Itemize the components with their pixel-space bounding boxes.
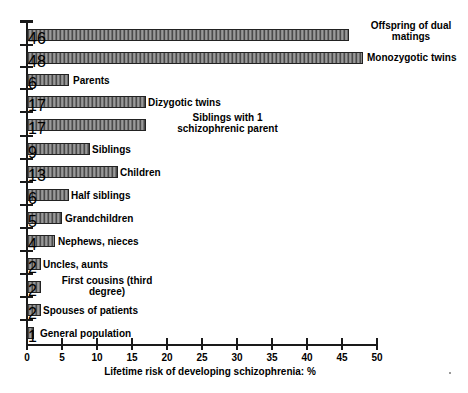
bar-label: Nephews, nieces — [58, 236, 188, 247]
bar: 6 — [27, 74, 69, 86]
x-axis-tick — [96, 338, 98, 350]
bar: 17 — [27, 119, 146, 131]
bar: 13 — [27, 166, 118, 178]
bar: 5 — [27, 212, 62, 224]
x-axis-title: Lifetime risk of developing schizophreni… — [0, 366, 420, 378]
x-axis-tick-label: 30 — [217, 352, 257, 364]
bar: 46 — [27, 29, 349, 41]
x-axis-tick-label: 0 — [7, 352, 47, 364]
bar-label: Siblings with 1 schizophrenic parent — [155, 112, 300, 134]
x-axis-tick-label: 20 — [147, 352, 187, 364]
bar-label: Siblings — [92, 144, 212, 155]
scan-speck — [449, 372, 451, 374]
x-axis-tick — [201, 338, 203, 350]
x-axis-tick — [306, 338, 308, 350]
bar: 2 — [27, 258, 41, 270]
x-axis-tick-label: 15 — [112, 352, 152, 364]
bar: 2 — [27, 281, 41, 293]
x-axis-tick-label: 40 — [287, 352, 327, 364]
bar-label: Parents — [73, 75, 193, 86]
bar-label: Uncles, aunts — [43, 259, 163, 270]
bar-chart: 4648617179136542221 Offspring of dual ma… — [0, 0, 468, 393]
bar: 2 — [27, 304, 41, 316]
bar: 9 — [27, 143, 90, 155]
bar: 6 — [27, 189, 69, 201]
x-axis-tick — [271, 338, 273, 350]
x-axis-tick — [236, 338, 238, 350]
x-axis-tick — [341, 338, 343, 350]
bar: 48 — [27, 52, 363, 64]
x-axis-tick — [61, 338, 63, 350]
x-axis-tick-label: 50 — [357, 352, 397, 364]
bar-label: Monozygotic twins — [367, 52, 468, 63]
bar-label: First cousins (third degree) — [42, 275, 172, 297]
x-axis-tick-label: 5 — [42, 352, 82, 364]
bar-label: Grandchildren — [65, 213, 185, 224]
y-axis-tick — [20, 20, 33, 22]
bar-label: Offspring of dual matings — [355, 20, 467, 42]
x-axis-tick-label: 35 — [252, 352, 292, 364]
x-axis-tick — [166, 338, 168, 350]
x-axis-tick-label: 25 — [182, 352, 222, 364]
bar: 4 — [27, 235, 55, 247]
x-axis-tick — [376, 338, 378, 350]
bar-label: Children — [120, 167, 240, 178]
bar: 1 — [27, 327, 34, 339]
bar-label: Half siblings — [71, 190, 191, 201]
bar: 17 — [27, 96, 146, 108]
x-axis-tick-label: 10 — [77, 352, 117, 364]
x-axis-tick — [26, 338, 28, 350]
x-axis-tick — [131, 338, 133, 350]
bar-label: Spouses of patients — [43, 305, 183, 316]
bar-label: Dizygotic twins — [148, 97, 268, 108]
x-axis-tick-label: 45 — [322, 352, 362, 364]
